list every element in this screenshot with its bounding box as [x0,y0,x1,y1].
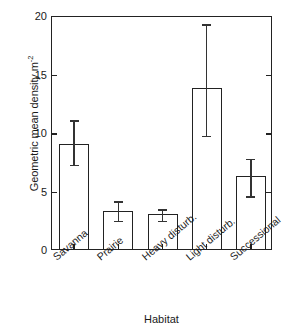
error-bar-line [73,121,74,165]
bar-chart-figure: Geometric mean density m-2 05101520 Sava… [0,0,288,333]
y-axis-tick-label: 0 [25,245,47,256]
y-axis-tick-labels: 05101520 [23,0,47,333]
error-bar-line [250,160,251,197]
error-bar-line [206,25,207,136]
x-axis-title: Habitat [51,314,272,325]
error-bar-cap-lower [158,221,167,222]
y-axis-tick-label: 5 [25,186,47,197]
error-bar-line [162,210,163,222]
y-axis-tick-label: 15 [25,69,47,80]
error-bar-cap-upper [158,209,167,210]
bars-and-error-bars [52,17,271,249]
error-bar-cap-lower [246,196,255,197]
y-axis-tick-label: 20 [25,11,47,22]
error-bar-cap-lower [202,136,211,137]
error-bar-cap-upper [114,201,123,202]
error-bar-cap-upper [202,24,211,25]
error-bar-cap-lower [70,165,79,166]
error-bar-line [118,202,119,222]
y-axis-tick-label: 10 [25,128,47,139]
error-bar-cap-upper [246,159,255,160]
error-bar-cap-upper [70,120,79,121]
error-bar-cap-lower [114,221,123,222]
plot-area [51,16,272,250]
x-axis-tick-labels: SavannaPrairieHeavy disturb.Light distur… [51,250,272,310]
